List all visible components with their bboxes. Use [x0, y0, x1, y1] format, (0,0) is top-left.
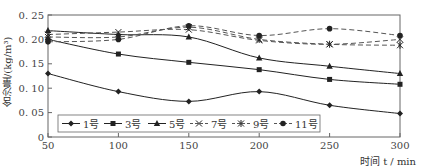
x-axis-label: 时间 t / min: [360, 153, 416, 168]
legend-label: 7号: [211, 119, 227, 130]
x-tick-label: 100: [109, 140, 128, 151]
y-tick-label: 0. 05: [19, 107, 44, 118]
y-tick-label: 0. 25: [19, 10, 44, 21]
line-chart: 00. 050. 100. 150. 200. 2550100150200250…: [0, 0, 424, 168]
y-tick-label: 0. 15: [19, 58, 44, 69]
legend-label: 11号: [295, 119, 318, 130]
x-tick-label: 250: [320, 140, 339, 151]
series-5: [45, 24, 403, 49]
legend-label: 5号: [169, 119, 185, 130]
y-axis-label: 含沙量/(kg/m³): [0, 22, 16, 122]
legend: 1号3号5号7号9号11号: [58, 115, 320, 132]
x-tick-label: 50: [42, 140, 55, 151]
legend-label: 9号: [253, 119, 269, 130]
legend-label: 3号: [125, 119, 141, 130]
legend-label: 1号: [83, 119, 99, 130]
series-2: [46, 37, 403, 87]
y-tick-label: 0. 10: [19, 83, 44, 94]
y-tick-label: 0. 20: [19, 34, 44, 45]
x-tick-label: 200: [250, 140, 269, 151]
x-tick-label: 150: [179, 140, 198, 151]
x-tick-label: 300: [390, 140, 409, 151]
series-1: [45, 71, 403, 117]
